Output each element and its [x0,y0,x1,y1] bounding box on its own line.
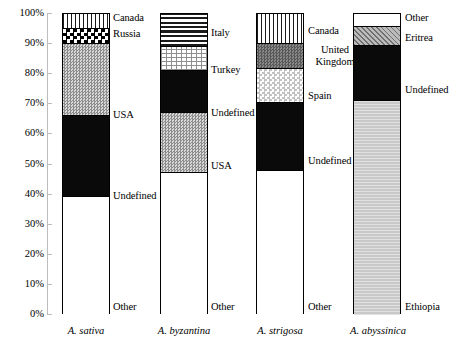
label-bar2-usa: USA [211,160,232,172]
stacked-bar-chart: 100% 90% 80% 70% 60% 50% 40% 30% 20% 10%… [0,0,454,346]
segment-united-kingdom[interactable] [257,44,303,69]
segment-italy[interactable] [161,14,207,47]
y-tick-label-10: 10% [0,279,44,289]
bar-a-byzantina[interactable] [160,13,208,314]
y-tick-0 [47,314,52,315]
y-tick-20 [47,254,52,255]
label-bar1-usa: USA [113,109,134,121]
segment-canada[interactable] [63,14,109,29]
segment-other[interactable] [161,173,207,315]
segment-other[interactable] [63,197,109,315]
segment-undefined[interactable] [257,103,303,171]
segment-other[interactable] [257,171,303,315]
label-bar1-russia: Russia [113,28,140,40]
category-label-a-byzantina: A. byzantina [129,325,239,336]
segment-usa[interactable] [161,113,207,173]
label-bar3-other: Other [308,301,331,313]
y-tick-label-100: 100% [0,8,44,18]
label-bar1-undefined: Undefined [113,190,156,202]
label-bar4-undefined: Undefined [405,84,448,96]
y-tick-label-20: 20% [0,249,44,259]
bar-a-sativa[interactable] [62,13,110,314]
segment-eritrea[interactable] [354,27,400,46]
label-bar4-ethiopia: Ethiopia [405,301,440,313]
y-tick-label-80: 80% [0,68,44,78]
segment-undefined[interactable] [161,71,207,113]
y-tick-10 [47,284,52,285]
y-tick-90 [47,43,52,44]
y-tick-label-50: 50% [0,159,44,169]
category-label-a-strigosa: A. strigosa [225,325,335,336]
bar-a-abyssinica[interactable] [353,13,401,314]
y-tick-label-40: 40% [0,189,44,199]
label-bar2-turkey: Turkey [211,64,240,76]
segment-canada[interactable] [257,14,303,44]
label-bar3-canada: Canada [308,25,339,37]
label-bar2-other: Other [211,301,234,313]
y-tick-60 [47,133,52,134]
label-bar1-other: Other [113,301,136,313]
segment-turkey[interactable] [161,47,207,71]
y-tick-label-90: 90% [0,38,44,48]
segment-usa[interactable] [63,44,109,116]
y-tick-label-60: 60% [0,128,44,138]
label-bar3-undefined: Undefined [308,155,351,167]
category-label-a-abyssinica: A. abyssinica [323,325,433,336]
label-bar1-canada: Canada [113,12,144,24]
segment-spain[interactable] [257,69,303,103]
y-tick-100 [47,13,52,14]
label-bar4-eritrea: Eritrea [405,32,433,44]
segment-ethiopia[interactable] [354,101,400,315]
y-tick-70 [47,103,52,104]
label-bar2-italy: Italy [211,27,230,39]
segment-other[interactable] [354,14,400,27]
segment-russia[interactable] [63,29,109,44]
y-tick-label-70: 70% [0,98,44,108]
label-bar3-spain: Spain [308,90,331,102]
y-tick-80 [47,73,52,74]
category-label-a-sativa: A. sativa [31,325,141,336]
y-tick-40 [47,194,52,195]
y-tick-30 [47,224,52,225]
label-bar2-undefined: Undefined [211,107,254,119]
segment-undefined[interactable] [354,46,400,101]
label-bar4-other: Other [405,12,428,24]
y-tick-label-30: 30% [0,219,44,229]
segment-undefined[interactable] [63,116,109,197]
y-tick-50 [47,164,52,165]
bar-a-strigosa[interactable] [256,13,304,314]
y-tick-label-0: 0% [0,309,44,319]
